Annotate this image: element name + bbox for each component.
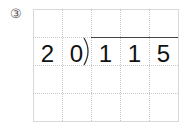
division-bracket-icon xyxy=(82,37,92,66)
divisor-digit: 2 xyxy=(33,40,62,68)
dividend-digit: 1 xyxy=(120,40,149,68)
dividend-digit: 5 xyxy=(149,40,178,68)
division-bar xyxy=(91,37,178,38)
dividend-digit: 1 xyxy=(91,40,120,68)
grid-line xyxy=(33,93,178,94)
problem-number: ③ xyxy=(10,6,22,21)
